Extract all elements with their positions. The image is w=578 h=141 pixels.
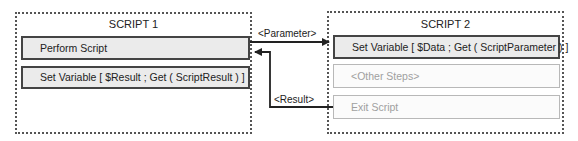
result-label: <Result> bbox=[274, 94, 314, 105]
connection-arrows bbox=[0, 0, 578, 141]
parameter-label: <Parameter> bbox=[258, 28, 316, 39]
